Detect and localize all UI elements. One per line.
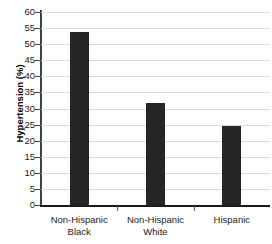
- x-axis-category-label: Non-HispanicWhite: [117, 214, 193, 238]
- x-axis-category-label: Non-HispanicBlack: [41, 214, 117, 238]
- gridline: [41, 12, 270, 13]
- y-axis-tick-label: 55: [5, 23, 35, 33]
- y-axis-tick-label: 40: [5, 71, 35, 81]
- bar-chart: Hypertension (%) 05101520253035404550556…: [0, 0, 272, 244]
- y-axis-tick-group: 051015202530354045505560: [0, 0, 35, 244]
- x-axis-category-label-line: Black: [41, 226, 117, 238]
- y-axis-tick-label: 25: [5, 120, 35, 130]
- y-axis-tick-label: 10: [5, 168, 35, 178]
- x-axis-category-label-line: Non-Hispanic: [117, 214, 193, 226]
- x-axis-category-label-line: Non-Hispanic: [41, 214, 117, 226]
- y-axis-tick-label: 50: [5, 39, 35, 49]
- y-axis-tick-label: 30: [5, 104, 35, 114]
- x-axis-group-separator: [194, 206, 195, 211]
- y-axis-tick-label: 35: [5, 87, 35, 97]
- x-axis-group-separator: [117, 206, 118, 211]
- y-axis-tick-label: 20: [5, 136, 35, 146]
- bar: [70, 32, 89, 205]
- bar: [146, 103, 165, 205]
- y-axis-tick-label: 60: [5, 7, 35, 17]
- y-axis-tick-label: 45: [5, 55, 35, 65]
- y-axis-tick-label: 15: [5, 152, 35, 162]
- gridline: [41, 28, 270, 29]
- x-axis-category-label: Hispanic: [194, 214, 270, 226]
- x-axis-category-label-line: White: [117, 226, 193, 238]
- y-axis-tick-label: 5: [5, 184, 35, 194]
- y-axis-tick-label: 0: [5, 200, 35, 210]
- bar: [222, 126, 241, 205]
- x-axis-line: [40, 205, 270, 207]
- x-axis-category-label-line: Hispanic: [194, 214, 270, 226]
- plot-area: [41, 12, 270, 205]
